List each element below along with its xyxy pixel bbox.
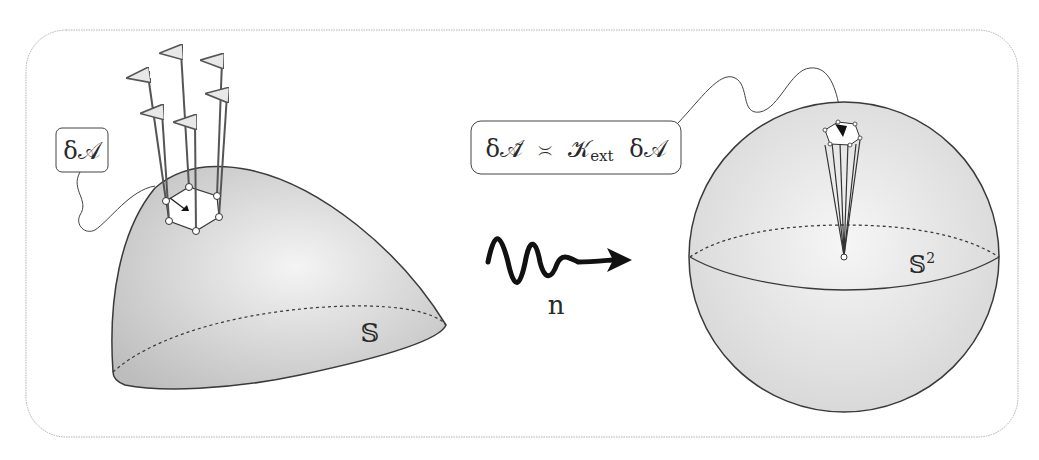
area-label: δ𝒜: [63, 137, 102, 165]
gauss-map-arrow: [488, 239, 632, 283]
formula-rhs: δ𝒜: [629, 135, 668, 163]
formula-relation: ≍: [538, 135, 552, 163]
formula-lhs: δ𝒜̃: [485, 135, 524, 163]
diagram-canvas: δ𝒜 𝕊 n δ𝒜̃ ≍ 𝒦ext δ𝒜 𝕊2: [0, 0, 1039, 460]
surface-s: [112, 167, 446, 389]
surface-label: 𝕊: [361, 318, 380, 348]
sphere-center: [841, 254, 847, 260]
map-label: n: [548, 290, 565, 320]
formula-k-sub: ext: [590, 147, 613, 165]
sphere-label-main: 𝕊: [909, 251, 926, 279]
sphere-label-sup: 2: [926, 250, 935, 266]
formula: δ𝒜̃ ≍ 𝒦ext δ𝒜: [485, 135, 668, 167]
